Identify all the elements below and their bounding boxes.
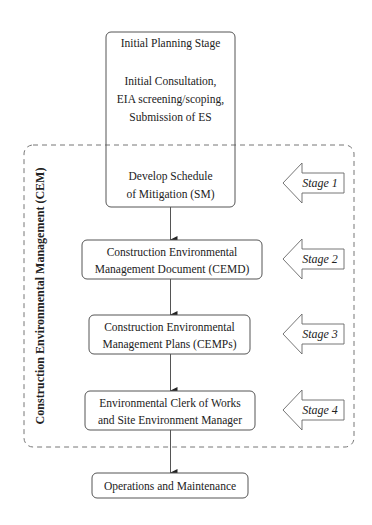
node-cemps-line: Management Plans (CEMPs) <box>102 338 236 351</box>
node-cemd-line: Construction Environmental <box>107 246 238 258</box>
stage-3-arrow: Stage 3 <box>283 314 344 354</box>
node-cemd-line: Management Document (CEMD) <box>95 263 250 276</box>
node-initial-line: Submission of ES <box>129 111 211 123</box>
node-initial-line: Initial Consultation, <box>125 75 217 88</box>
stage-2-arrow: Stage 2 <box>283 239 344 279</box>
node-cemps: Construction Environmental Management Pl… <box>89 315 250 354</box>
node-operations: Operations and Maintenance <box>92 473 248 498</box>
node-cemps-line: Construction Environmental <box>104 321 235 333</box>
stage-1-label: Stage 1 <box>302 176 338 190</box>
stage-2-label: Stage 2 <box>302 252 338 266</box>
node-initial-line: Develop Schedule <box>129 170 213 183</box>
node-cemd: Construction Environmental Management Do… <box>82 240 262 279</box>
node-initial-title: Initial Planning Stage <box>121 37 221 50</box>
node-initial-planning: Initial Planning Stage Initial Consultat… <box>106 32 235 207</box>
stage-4-arrow: Stage 4 <box>283 390 344 430</box>
stage-4-label: Stage 4 <box>302 403 338 417</box>
stage-3-label: Stage 3 <box>302 327 338 341</box>
node-ecow-line: and Site Environment Manager <box>98 414 242 427</box>
cem-flow-diagram: Construction Environmental Management (C… <box>0 0 372 525</box>
node-ops-line: Operations and Maintenance <box>104 480 236 493</box>
stage-1-arrow: Stage 1 <box>283 163 344 203</box>
node-ecow-line: Environmental Clerk of Works <box>99 397 241 409</box>
cem-frame-label: Construction Environmental Management (C… <box>33 168 47 425</box>
node-ecow: Environmental Clerk of Works and Site En… <box>85 391 255 430</box>
node-initial-line: of Mitigation (SM) <box>126 188 214 201</box>
node-initial-line: EIA screening/scoping, <box>117 93 224 106</box>
